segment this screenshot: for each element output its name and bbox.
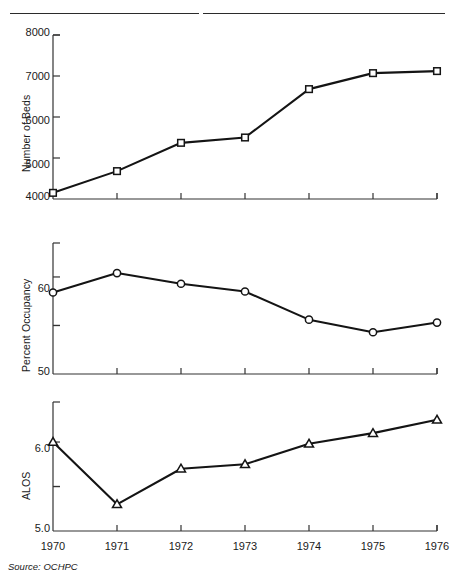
x-tick-1975: 1975 <box>345 540 401 552</box>
x-tick-1971: 1971 <box>89 540 145 552</box>
x-tick-1973: 1973 <box>217 540 273 552</box>
x-tick-1970: 1970 <box>25 540 81 552</box>
chart-panel-alos <box>0 0 455 545</box>
data-point-marker <box>49 438 58 446</box>
source-note: Source: OCHPC <box>8 561 78 572</box>
x-tick-1974: 1974 <box>281 540 337 552</box>
x-tick-1972: 1972 <box>153 540 209 552</box>
x-tick-1976: 1976 <box>409 540 455 552</box>
data-point-marker <box>433 415 442 423</box>
figure-canvas: Number of Beds 8000 7000 6000 5000 4000 … <box>0 0 455 585</box>
